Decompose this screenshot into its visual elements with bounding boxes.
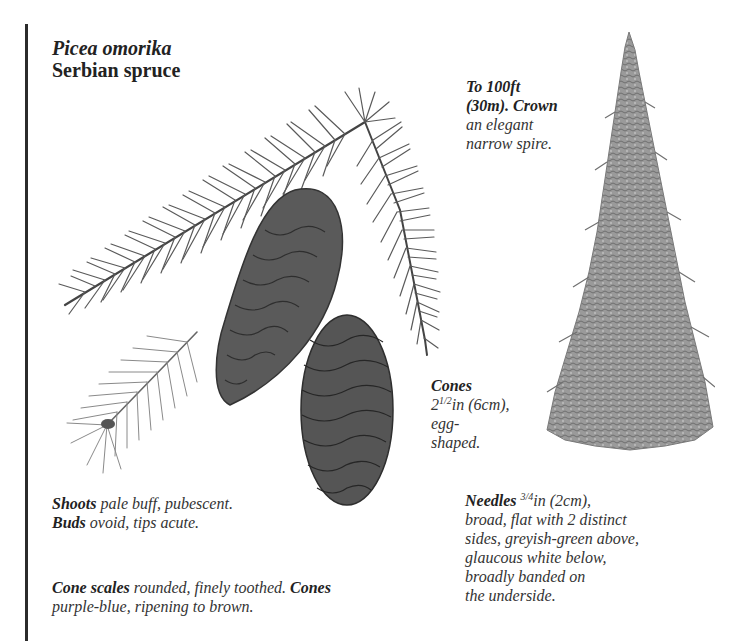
cone-scales-caption: Cone scales rounded, finely toothed. Con… — [52, 578, 331, 616]
cones-text-2: shaped. — [431, 434, 480, 451]
cone-lower-illustration — [301, 315, 393, 505]
margin-rule — [25, 24, 28, 641]
crown-text-2: narrow spire. — [466, 135, 552, 152]
needles-line-5: the underside. — [465, 587, 556, 604]
height-caption: To 100ft (30m). Crown an elegant narrow … — [466, 77, 558, 153]
needles-caption: Needles 3/4in (2cm), broad, flat with 2 … — [465, 491, 639, 605]
needles-size-rest: in (2cm), — [533, 492, 591, 509]
height-label-2: (30m). Crown — [466, 97, 558, 114]
cones-size-rest: in (6cm), — [452, 396, 510, 413]
needles-line-1: broad, flat with 2 distinct — [465, 511, 627, 528]
scientific-name: Picea omorika — [52, 37, 180, 59]
needles-label: Needles — [465, 492, 517, 509]
cones-label: Cones — [431, 377, 472, 394]
needles-line-3: glaucous white below, — [465, 549, 606, 566]
cones-text-1: egg- — [431, 415, 459, 432]
cones-caption: Cones 21/2in (6cm), egg- shaped. — [431, 376, 510, 452]
tree-illustration — [545, 32, 715, 452]
species-heading: Picea omorika Serbian spruce — [52, 37, 180, 81]
buds-label: Buds — [52, 514, 86, 531]
buds-text: ovoid, tips acute. — [86, 514, 199, 531]
needles-line-4: broadly banded on — [465, 568, 585, 585]
height-label: To 100ft — [466, 78, 520, 95]
shoots-text: pale buff, pubescent. — [96, 495, 232, 512]
cones-size-whole: 2 — [431, 396, 439, 413]
cones-size-fraction: 1/2 — [439, 395, 452, 406]
cones-color-text: purple-blue, ripening to brown. — [52, 598, 254, 615]
crown-text-1: an elegant — [466, 116, 533, 133]
cone-scales-text: rounded, finely toothed. — [130, 579, 290, 596]
cones-color-label: Cones — [290, 579, 331, 596]
shoots-label: Shoots — [52, 495, 96, 512]
needles-size-fraction: 3/4 — [521, 491, 534, 502]
common-name: Serbian spruce — [52, 59, 180, 81]
shoot-illustration — [62, 320, 212, 480]
needles-line-2: sides, greyish-green above, — [465, 530, 639, 547]
cone-scales-label: Cone scales — [52, 579, 130, 596]
shoots-caption: Shoots pale buff, pubescent. Buds ovoid,… — [52, 494, 233, 532]
